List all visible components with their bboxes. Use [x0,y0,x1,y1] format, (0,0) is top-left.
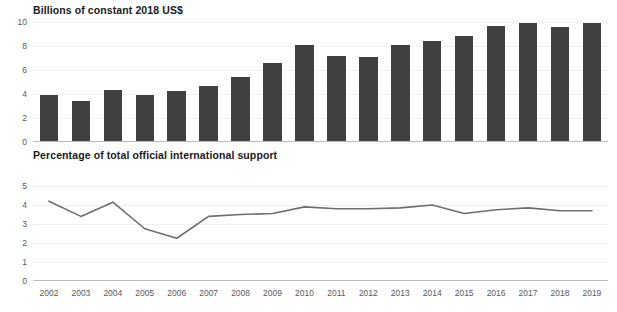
bar-slot [352,22,384,142]
bar-slot [97,22,129,142]
bar-slot [193,22,225,142]
x-axis-tick-label-2013: 2013 [384,288,416,298]
bar-chart-title: Billions of constant 2018 US$ [33,4,183,16]
x-axis-tick-label-2010: 2010 [289,288,321,298]
y-axis-tick-label: 5 [22,181,27,191]
bar-2019 [583,23,602,142]
y-axis-tick-label: 2 [22,238,27,248]
y-axis-tick-label: 0 [22,276,27,286]
x-axis-tick-label-2017: 2017 [512,288,544,298]
bar-2003 [72,101,91,142]
bar-series [33,22,608,142]
x-axis-tick-label-2002: 2002 [33,288,65,298]
bar-slot [512,22,544,142]
y-axis-tick-label: 0 [22,137,27,147]
bar-2015 [455,36,474,142]
bar-slot [384,22,416,142]
x-axis-tick-label-2015: 2015 [448,288,480,298]
bar-slot [544,22,576,142]
bar-2007 [199,86,218,142]
x-axis-tick-label-2009: 2009 [257,288,289,298]
y-axis-tick-label: 2 [22,113,27,123]
x-axis-tick-label-2011: 2011 [320,288,352,298]
dual-panel-chart: Billions of constant 2018 US$ 0246810 Pe… [0,0,617,312]
bar-slot [448,22,480,142]
bar-2008 [231,77,250,142]
x-axis-tick-label-2007: 2007 [193,288,225,298]
bar-2018 [551,27,570,142]
bar-slot [320,22,352,142]
line-series-path [49,201,592,238]
line-chart-baseline [33,280,608,281]
x-axis-tick-label-2019: 2019 [576,288,608,298]
bar-slot [225,22,257,142]
x-axis-tick-label-2016: 2016 [480,288,512,298]
bar-slot [576,22,608,142]
y-axis-tick-label: 6 [22,65,27,75]
bar-2012 [359,57,378,142]
bar-2002 [40,95,59,142]
bar-2011 [327,56,346,142]
y-axis-tick-label: 1 [22,257,27,267]
x-axis-tick-label-2018: 2018 [544,288,576,298]
bar-2016 [487,26,506,142]
bar-slot [416,22,448,142]
bar-slot [161,22,193,142]
line-chart-title: Percentage of total official internation… [33,149,277,161]
bar-2010 [295,45,314,142]
y-axis-tick-label: 3 [22,219,27,229]
x-axis-tick-label-2014: 2014 [416,288,448,298]
bar-chart-plot-area: 0246810 [33,22,608,142]
bar-2004 [104,90,123,142]
bar-2005 [136,95,155,142]
x-axis-tick-label-2006: 2006 [161,288,193,298]
x-axis-tick-label-2012: 2012 [352,288,384,298]
x-axis-tick-label-2008: 2008 [225,288,257,298]
y-axis-tick-label: 4 [22,200,27,210]
y-axis-tick-label: 8 [22,41,27,51]
x-axis-tick-label-2003: 2003 [65,288,97,298]
y-axis-tick-label: 10 [18,17,27,27]
bar-slot [129,22,161,142]
line-chart-plot-area: 012345 [33,186,608,281]
bar-slot [289,22,321,142]
bar-slot [65,22,97,142]
bar-slot [480,22,512,142]
bar-2006 [167,91,186,142]
x-axis-year-labels: 2002200320042005200620072008200920102011… [33,288,608,298]
x-axis-tick-label-2004: 2004 [97,288,129,298]
bar-slot [33,22,65,142]
line-series [33,186,608,281]
bar-chart-baseline [33,141,608,142]
bar-slot [257,22,289,142]
bar-2013 [391,45,410,142]
bar-2009 [263,63,282,142]
bar-2014 [423,41,442,142]
x-axis-tick-label-2005: 2005 [129,288,161,298]
y-axis-tick-label: 4 [22,89,27,99]
bar-2017 [519,23,538,142]
